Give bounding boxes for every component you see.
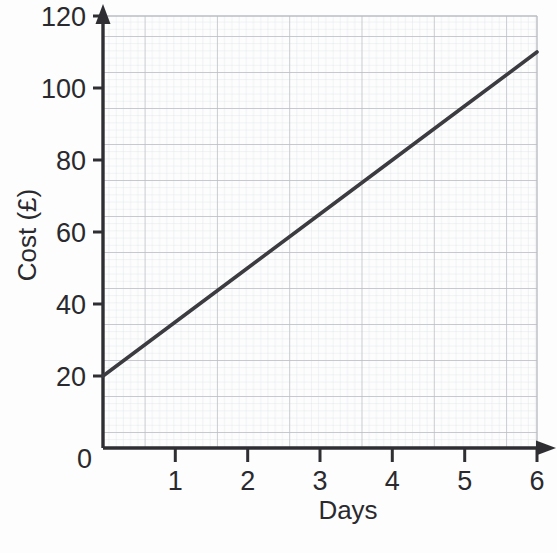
x-tick-label-5: 5 (457, 466, 472, 496)
plot-grid (103, 16, 537, 448)
x-tick-label-4: 4 (385, 466, 400, 496)
x-tick-label-6: 6 (529, 466, 544, 496)
x-axis-ticks (175, 448, 537, 462)
x-axis-arrow-icon (536, 441, 556, 456)
y-tick-label-60: 60 (56, 218, 86, 248)
y-tick-label-20: 20 (56, 362, 86, 392)
y-tick-label-100: 100 (41, 74, 86, 104)
y-tick-label-40: 40 (56, 290, 86, 320)
y-tick-label-80: 80 (56, 146, 86, 176)
origin-label-0: 0 (77, 444, 92, 474)
x-axis-tick-labels: 1 2 3 4 5 6 (168, 466, 545, 496)
y-axis-title: Cost (£) (12, 189, 42, 281)
y-tick-label-120: 120 (41, 2, 86, 32)
chart-canvas: 120 100 80 60 40 20 0 1 2 3 4 5 6 Days C… (0, 0, 557, 553)
y-axis-tick-labels: 120 100 80 60 40 20 0 (41, 2, 92, 474)
line-graph-figure: 120 100 80 60 40 20 0 1 2 3 4 5 6 Days C… (0, 0, 557, 553)
y-axis-arrow-icon (96, 4, 111, 24)
x-tick-label-1: 1 (168, 466, 183, 496)
x-tick-label-3: 3 (312, 466, 327, 496)
x-tick-label-2: 2 (240, 466, 255, 496)
x-axis-title: Days (318, 495, 377, 525)
